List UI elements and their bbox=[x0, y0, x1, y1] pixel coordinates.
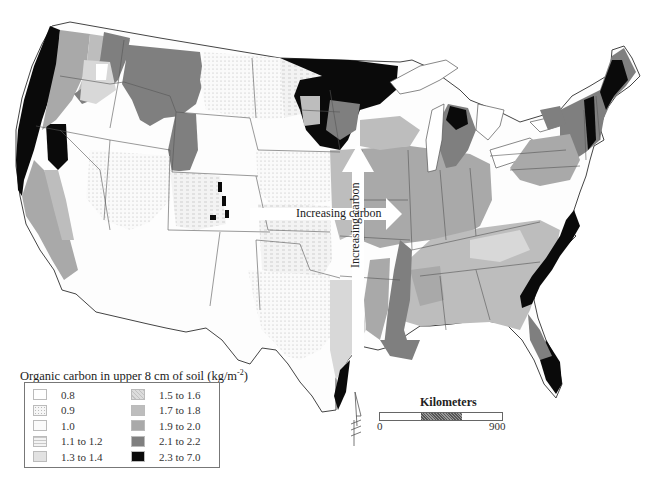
legend-label: 1.7 to 1.8 bbox=[159, 404, 201, 416]
legend-item: 2.1 to 2.2 bbox=[131, 434, 201, 450]
region-northeast bbox=[510, 48, 636, 186]
legend-swatch bbox=[131, 389, 145, 400]
scale-bar-segment bbox=[421, 413, 462, 420]
legend-item: 1.0 bbox=[33, 418, 103, 434]
legend-label: 1.5 to 1.6 bbox=[159, 389, 201, 401]
arrow-label-north: Increasing carbon bbox=[348, 182, 363, 268]
legend-swatch bbox=[33, 420, 47, 431]
scale-title: Kilometers bbox=[420, 395, 477, 410]
legend-label: 2.3 to 7.0 bbox=[159, 451, 201, 463]
legend-item: 1.9 to 2.0 bbox=[131, 418, 201, 434]
legend-swatch bbox=[33, 389, 47, 400]
legend-unit-exponent: -2 bbox=[237, 368, 244, 377]
scale-max-label: 900 bbox=[489, 420, 506, 432]
legend-swatch bbox=[33, 436, 47, 447]
legend-item: 1.3 to 1.4 bbox=[33, 449, 103, 465]
legend-title-close: ) bbox=[244, 369, 248, 383]
legend-swatch bbox=[131, 436, 145, 447]
legend-item: 0.9 bbox=[33, 403, 103, 419]
legend-label: 1.9 to 2.0 bbox=[159, 420, 201, 432]
legend-swatch bbox=[33, 451, 47, 462]
legend-swatch bbox=[131, 405, 145, 416]
legend-label: 0.8 bbox=[61, 389, 75, 401]
legend-item: 0.8 bbox=[33, 387, 103, 403]
legend-column-2: 1.5 to 1.6 1.7 to 1.8 1.9 to 2.0 2.1 to … bbox=[131, 387, 201, 465]
legend-item: 1.7 to 1.8 bbox=[131, 403, 201, 419]
legend: 0.8 0.9 1.0 1.1 to 1.2 1.3 to 1.4 1.5 to… bbox=[24, 382, 220, 468]
legend-swatch bbox=[33, 405, 47, 416]
legend-column-1: 0.8 0.9 1.0 1.1 to 1.2 1.3 to 1.4 bbox=[33, 387, 103, 465]
scale-min-label: 0 bbox=[377, 420, 383, 432]
legend-item: 1.1 to 1.2 bbox=[33, 434, 103, 450]
legend-label: 2.1 to 2.2 bbox=[159, 435, 201, 447]
legend-label: 1.1 to 1.2 bbox=[61, 435, 103, 447]
legend-swatch bbox=[131, 420, 145, 431]
scale-bar-graphic bbox=[379, 412, 503, 421]
legend-label: 1.3 to 1.4 bbox=[61, 451, 103, 463]
legend-label: 1.0 bbox=[61, 420, 75, 432]
legend-item: 2.3 to 7.0 bbox=[131, 449, 201, 465]
arrow-label-east: Increasing carbon bbox=[296, 206, 382, 221]
legend-label: 0.9 bbox=[61, 404, 75, 416]
legend-swatch bbox=[131, 451, 145, 462]
legend-item: 1.5 to 1.6 bbox=[131, 387, 201, 403]
